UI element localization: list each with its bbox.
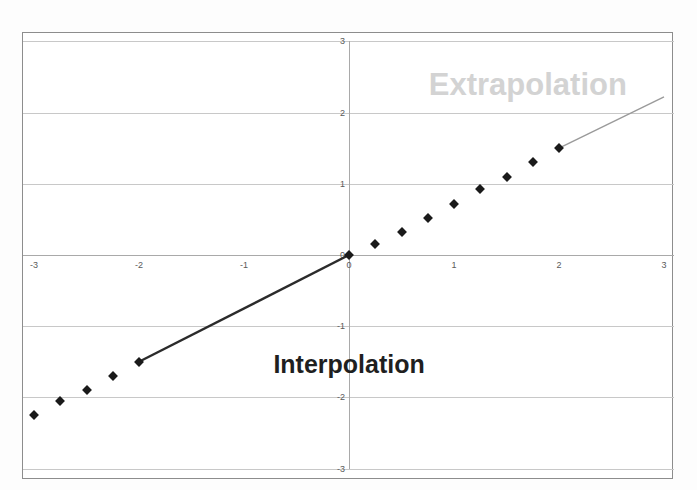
data-point-marker bbox=[554, 143, 564, 153]
x-tick-label: -2 bbox=[127, 260, 151, 270]
series-line bbox=[139, 255, 349, 362]
x-tick-label: -3 bbox=[22, 260, 46, 270]
interpolation-annotation: Interpolation bbox=[273, 350, 424, 379]
data-point-marker bbox=[370, 239, 380, 249]
data-point-marker bbox=[344, 250, 354, 260]
x-tick-label: 1 bbox=[442, 260, 466, 270]
y-tick-label: -2 bbox=[323, 392, 345, 402]
data-point-marker bbox=[29, 410, 39, 420]
data-point-marker bbox=[134, 357, 144, 367]
y-tick-label: 2 bbox=[323, 108, 345, 118]
chart-frame: 3210-1-2-3 -3-2-10123 Extrapolation Inte… bbox=[22, 32, 673, 479]
data-point-marker bbox=[475, 185, 485, 195]
data-point-marker bbox=[423, 213, 433, 223]
x-tick-label: 0 bbox=[337, 260, 361, 270]
x-tick-label: -1 bbox=[232, 260, 256, 270]
y-tick-label: -1 bbox=[323, 321, 345, 331]
data-point-marker bbox=[108, 371, 118, 381]
data-point-marker bbox=[82, 385, 92, 395]
x-tick-label: 3 bbox=[652, 260, 676, 270]
gridline-y bbox=[23, 469, 674, 470]
plot-area: 3210-1-2-3 -3-2-10123 Extrapolation Inte… bbox=[23, 33, 674, 480]
x-tick-label: 2 bbox=[547, 260, 571, 270]
data-point-marker bbox=[397, 227, 407, 237]
y-tick-label: -3 bbox=[323, 464, 345, 474]
y-tick-label: 1 bbox=[323, 179, 345, 189]
data-point-marker bbox=[449, 199, 459, 209]
clipped-caption-text bbox=[0, 0, 697, 4]
y-tick-label: 0 bbox=[323, 250, 345, 260]
data-point-marker bbox=[502, 172, 512, 182]
data-point-marker bbox=[528, 157, 538, 167]
extrapolation-annotation: Extrapolation bbox=[429, 67, 627, 103]
series-line bbox=[559, 97, 664, 148]
y-tick-label: 3 bbox=[323, 36, 345, 46]
